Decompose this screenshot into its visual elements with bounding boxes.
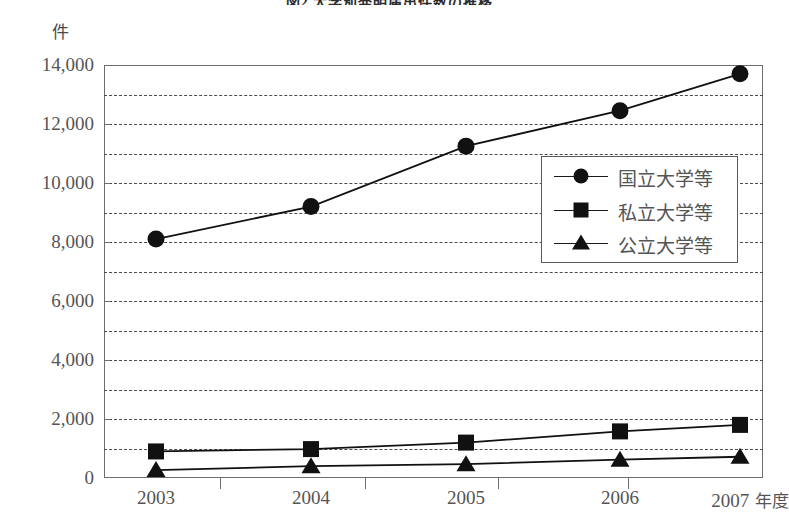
legend-item-0: 国立大学等 — [542, 160, 739, 194]
x-axis-tick-label: 2003 — [137, 487, 175, 509]
gridline — [104, 154, 763, 155]
legend-label-0: 国立大学等 — [618, 164, 713, 191]
legend-item-2: 公立大学等 — [542, 227, 739, 261]
x-axis-tick-label: 2005 — [447, 487, 485, 509]
figure-title: 図2 大学別発明届出件数の推移 — [0, 0, 779, 5]
y-axis-tick-label: 10,000 — [0, 173, 94, 192]
x-axis-tick-mark — [498, 478, 499, 489]
y-axis-tick-label: 0 — [0, 468, 94, 487]
y-axis-tick-mark — [104, 242, 110, 243]
y-axis-tick-label: 14,000 — [0, 55, 94, 74]
y-axis-tick-mark — [104, 419, 110, 420]
gridline — [104, 331, 763, 332]
y-axis-tick-label: 12,000 — [0, 114, 94, 133]
y-axis-tick-label: 4,000 — [0, 350, 94, 369]
y-axis-tick-mark — [104, 360, 110, 361]
gridline — [104, 95, 763, 96]
circle-icon — [550, 162, 612, 192]
x-axis-tick-label: 2006 — [601, 487, 639, 509]
gridline — [104, 449, 763, 450]
gridline — [104, 301, 763, 302]
y-axis-tick-mark — [104, 124, 110, 125]
chart-legend: 国立大学等 私立大学等 公立大学等 — [541, 156, 738, 263]
x-axis-tick-label: 2007 年度 — [711, 487, 788, 512]
y-axis-unit-label: 件 — [52, 18, 69, 43]
y-axis-tick-label: 2,000 — [0, 409, 94, 428]
x-axis-tick-mark — [628, 478, 629, 489]
x-axis-tick-mark — [365, 478, 366, 489]
legend-label-2: 公立大学等 — [618, 231, 713, 258]
gridline — [104, 360, 763, 361]
gridline — [104, 419, 763, 420]
y-axis-tick-label: 6,000 — [0, 291, 94, 310]
x-axis-tick-label: 2004 — [292, 487, 330, 509]
y-axis-tick-mark — [104, 183, 110, 184]
y-axis-tick-label: 8,000 — [0, 232, 94, 251]
y-axis-tick-mark — [104, 301, 110, 302]
legend-label-1: 私立大学等 — [618, 198, 713, 225]
square-icon — [550, 196, 612, 226]
legend-item-1: 私立大学等 — [542, 194, 739, 228]
gridline — [104, 124, 763, 125]
gridline — [104, 272, 763, 273]
gridline — [104, 390, 763, 391]
x-axis-tick-mark — [220, 478, 221, 489]
triangle-icon — [550, 229, 612, 259]
